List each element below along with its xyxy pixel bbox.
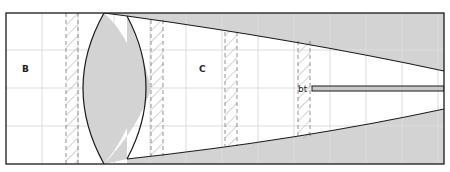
hatched-strip-2 xyxy=(151,20,163,156)
rod xyxy=(312,86,444,91)
diagram-canvas: B C bt xyxy=(0,0,450,172)
optical-diagram: B C bt xyxy=(0,0,450,172)
label-region-c: C xyxy=(199,64,206,74)
hatched-strip-1 xyxy=(66,13,78,164)
label-rod-bt: bt xyxy=(298,84,308,94)
frame-content xyxy=(6,13,444,164)
hatched-strip-3 xyxy=(225,32,237,146)
label-region-b: B xyxy=(22,64,29,74)
